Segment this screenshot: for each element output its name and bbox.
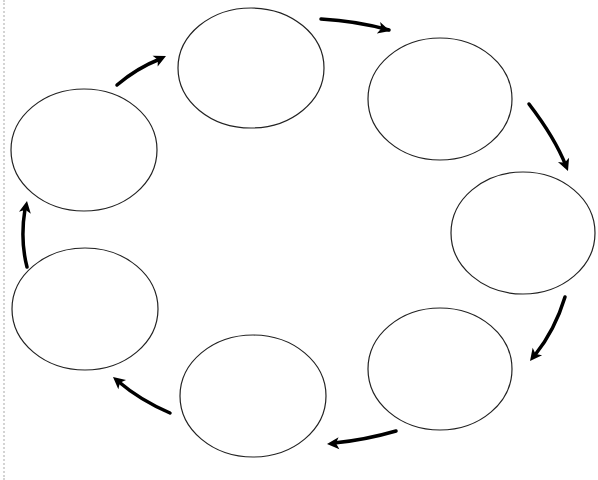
cycle-node (178, 8, 324, 128)
cycle-arrow (327, 431, 396, 450)
cycle-node (11, 89, 157, 211)
cycle-node (180, 335, 326, 457)
cycle-node (368, 38, 512, 160)
arrow-shaft (334, 431, 396, 443)
cycle-diagram (0, 0, 598, 480)
cycle-arrow (321, 19, 392, 37)
arrowhead-icon (558, 158, 574, 174)
cycle-arrow (525, 297, 565, 365)
arrow-shaft (117, 59, 160, 85)
cycle-arrow (117, 51, 169, 85)
node-ellipse (11, 89, 157, 211)
arrowhead-icon (153, 51, 169, 67)
cycle-arrow (109, 372, 170, 413)
node-ellipse (12, 248, 158, 370)
node-ellipse (368, 38, 512, 160)
cycle-node (368, 308, 512, 430)
node-ellipse (368, 308, 512, 430)
node-ellipse (180, 335, 326, 457)
cycle-node (12, 248, 158, 370)
arrow-shaft (529, 104, 566, 166)
arrow-shaft (321, 19, 389, 30)
cycle-arrow (19, 200, 33, 267)
node-ellipse (451, 172, 595, 294)
node-ellipse (178, 8, 324, 128)
cycle-node (451, 172, 595, 294)
arrow-shaft (535, 297, 565, 355)
cycle-arrow (529, 104, 574, 173)
arrow-shaft (119, 382, 170, 413)
arrow-shaft (23, 209, 27, 267)
